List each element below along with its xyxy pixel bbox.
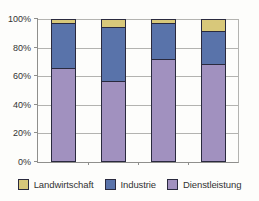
y-axis-label: 40%	[13, 100, 31, 110]
x-axis-tick	[138, 162, 139, 165]
legend-label: Landwirtschaft	[34, 179, 94, 190]
segment-dienstleistung	[52, 68, 75, 161]
legend-swatch-landwirtschaft	[18, 179, 29, 190]
y-axis-label: 60%	[13, 71, 31, 81]
bar-slot-1	[38, 19, 88, 162]
bar-1	[51, 19, 76, 162]
y-axis-label: 0%	[18, 157, 31, 167]
legend-swatch-dienstleistung	[167, 179, 178, 190]
legend-item-industrie: Industrie	[105, 179, 157, 190]
bar-slot-4	[188, 19, 238, 162]
segment-dienstleistung	[202, 64, 225, 161]
legend-label: Industrie	[121, 179, 157, 190]
stacked-bar-chart: 0%20%40%60%80%100% LandwirtschaftIndustr…	[0, 0, 259, 201]
y-axis-label: 80%	[13, 43, 31, 53]
plot-area: 0%20%40%60%80%100%	[37, 19, 239, 163]
legend-label: Dienstleistung	[183, 179, 241, 190]
segment-industrie	[52, 23, 75, 68]
legend-item-dienstleistung: Dienstleistung	[167, 179, 241, 190]
bar-4	[201, 19, 226, 162]
segment-industrie	[152, 23, 175, 60]
bar-slots	[38, 19, 238, 162]
x-axis-tick	[188, 162, 189, 165]
segment-industrie	[102, 27, 125, 81]
segment-landwirtschaft	[102, 20, 125, 27]
bar-3	[151, 19, 176, 162]
y-axis-label: 20%	[13, 128, 31, 138]
legend: LandwirtschaftIndustrieDienstleistung	[0, 176, 259, 192]
y-axis-label: 100%	[8, 14, 31, 24]
segment-dienstleistung	[152, 59, 175, 161]
segment-dienstleistung	[102, 81, 125, 161]
bar-slot-3	[138, 19, 188, 162]
legend-swatch-industrie	[105, 179, 116, 190]
bar-2	[101, 19, 126, 162]
bar-slot-2	[88, 19, 138, 162]
x-axis-tick	[88, 162, 89, 165]
segment-industrie	[202, 31, 225, 63]
segment-landwirtschaft	[202, 20, 225, 31]
legend-item-landwirtschaft: Landwirtschaft	[18, 179, 94, 190]
